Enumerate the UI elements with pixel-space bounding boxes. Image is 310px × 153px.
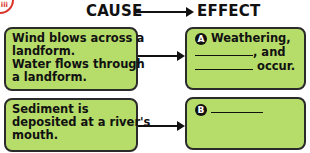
cause-heading: CAUSE [86, 2, 142, 20]
answer-blank-3[interactable] [211, 102, 263, 113]
header-arrow-icon [136, 11, 188, 13]
cause-box-1: Wind blows across a landform. Water flow… [4, 27, 138, 91]
effect-a-line-3: occur. [257, 59, 295, 73]
arrow-right-icon [138, 55, 180, 57]
effect-box-b: B [185, 97, 306, 150]
answer-blank-1[interactable] [195, 45, 253, 56]
arrow-right-icon [138, 125, 180, 127]
cause-box-2: Sediment is deposited at a river's mouth… [4, 98, 138, 152]
effect-a-line-2: , and [253, 45, 286, 59]
effect-box-a: AWeathering, , and occur. [185, 27, 306, 90]
cause-2-line-3: mouth. [12, 129, 130, 142]
effect-a-line-1: Weathering, [211, 31, 291, 45]
answer-blank-2[interactable] [195, 59, 253, 70]
badge-b-icon: B [195, 104, 207, 116]
effect-heading: EFFECT [197, 2, 260, 20]
book-logo-icon: iii [0, 0, 14, 14]
badge-a-icon: A [195, 33, 207, 45]
cause-1-line-4: a landform. [12, 71, 130, 84]
